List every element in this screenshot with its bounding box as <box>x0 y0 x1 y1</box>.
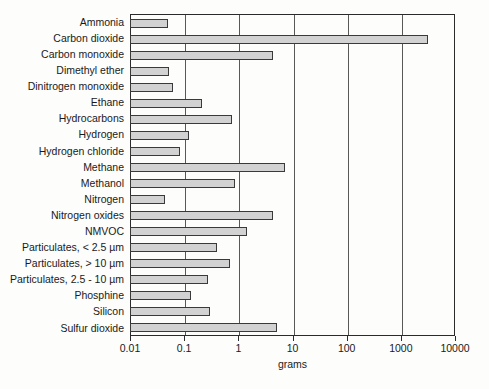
category-label: Silicon <box>0 304 128 320</box>
tick-mark <box>455 336 456 341</box>
tick-mark <box>184 336 185 341</box>
bar <box>130 179 235 188</box>
bar <box>130 35 428 44</box>
bar <box>130 275 208 284</box>
bar <box>130 67 169 76</box>
bar <box>130 291 191 300</box>
bar <box>130 115 232 124</box>
bar <box>130 259 230 268</box>
category-label: Particulates, 2.5 - 10 µm <box>0 272 128 288</box>
tick-label: 0.01 <box>120 342 140 354</box>
bar-row <box>131 111 454 127</box>
bar-row <box>131 223 454 239</box>
tick-mark <box>130 336 131 341</box>
category-label: Carbon monoxide <box>0 46 128 62</box>
bar <box>130 227 247 236</box>
category-label: Methanol <box>0 175 128 191</box>
x-axis-title: grams <box>130 358 455 370</box>
category-label: Methane <box>0 159 128 175</box>
bars-layer <box>131 15 454 335</box>
category-label: Dinitrogen monoxide <box>0 78 128 94</box>
bar <box>130 163 285 172</box>
bar <box>130 211 273 220</box>
bar-row <box>131 271 454 287</box>
bar-row <box>131 127 454 143</box>
tick-label: 1 <box>235 342 241 354</box>
bar-row <box>131 47 454 63</box>
category-axis-labels: AmmoniaCarbon dioxideCarbon monoxideDime… <box>0 14 128 336</box>
bar <box>130 83 173 92</box>
category-label: Phosphine <box>0 288 128 304</box>
category-label: Nitrogen <box>0 191 128 207</box>
bar-row <box>131 79 454 95</box>
tick-label: 100 <box>338 342 356 354</box>
bar-row <box>131 255 454 271</box>
bar-row <box>131 207 454 223</box>
tick-label: 0.1 <box>177 342 192 354</box>
bar <box>130 99 202 108</box>
category-label: Particulates, < 2.5 µm <box>0 239 128 255</box>
bar <box>130 307 210 316</box>
bar <box>130 131 189 140</box>
bar-row <box>131 95 454 111</box>
category-label: Hydrocarbons <box>0 111 128 127</box>
bar <box>130 147 180 156</box>
tick-mark <box>238 336 239 341</box>
tick-label: 10000 <box>440 342 469 354</box>
bar-row <box>131 63 454 79</box>
bar <box>130 243 217 252</box>
category-label: Ammonia <box>0 14 128 30</box>
bar <box>130 195 165 204</box>
tick-mark <box>347 336 348 341</box>
tick-mark <box>401 336 402 341</box>
category-label: Dimethyl ether <box>0 62 128 78</box>
category-label: Hydrogen <box>0 127 128 143</box>
plot-area <box>130 14 455 336</box>
category-label: Hydrogen chloride <box>0 143 128 159</box>
bar <box>130 19 168 28</box>
bar-chart: AmmoniaCarbon dioxideCarbon monoxideDime… <box>0 0 489 389</box>
bar-row <box>131 143 454 159</box>
tick-label: 10 <box>287 342 299 354</box>
tick-mark <box>293 336 294 341</box>
bar-row <box>131 239 454 255</box>
bar-row <box>131 15 454 31</box>
bar-row <box>131 303 454 319</box>
bar-row <box>131 287 454 303</box>
category-label: Ethane <box>0 94 128 110</box>
tick-label: 1000 <box>389 342 412 354</box>
bar-row <box>131 31 454 47</box>
bar-row <box>131 175 454 191</box>
bar <box>130 323 277 332</box>
category-label: NMVOC <box>0 223 128 239</box>
category-label: Particulates, > 10 µm <box>0 255 128 271</box>
bar <box>130 51 273 60</box>
category-label: Nitrogen oxides <box>0 207 128 223</box>
bar-row <box>131 191 454 207</box>
category-label: Sulfur dioxide <box>0 320 128 336</box>
bar-row <box>131 319 454 335</box>
bar-row <box>131 159 454 175</box>
category-label: Carbon dioxide <box>0 30 128 46</box>
